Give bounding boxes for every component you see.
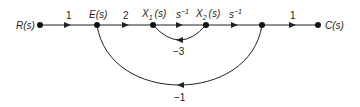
arrow-local-loop-icon	[176, 37, 183, 43]
label-X1: X1(s)	[141, 8, 166, 21]
gain-N-C: 1	[290, 10, 296, 21]
arrow-X1-X2-icon	[176, 22, 183, 28]
label-C: C(s)	[325, 20, 344, 31]
gain-E-X1: 2	[123, 10, 129, 21]
gain-R-E: 1	[66, 10, 72, 21]
arrow-N-C-icon	[289, 22, 296, 28]
gain-local-loop: −3	[173, 46, 185, 57]
arrow-outer-loop-icon	[177, 82, 184, 88]
signal-flow-graph: R(s) E(s) X1(s) X2(s) C(s) 1 2 s−1 s−1 1…	[0, 0, 360, 107]
node-R	[37, 22, 43, 28]
node-X2	[203, 22, 209, 28]
arrow-X2-N-icon	[231, 22, 238, 28]
node-N	[259, 22, 265, 28]
gain-X1-X2: s−1	[176, 8, 189, 20]
gain-X2-N: s−1	[229, 8, 242, 20]
arrow-E-X1-icon	[122, 22, 129, 28]
node-E	[94, 22, 100, 28]
arrow-R-E-icon	[64, 22, 71, 28]
gain-outer-loop: −1	[174, 92, 186, 103]
label-X2: X2(s)	[195, 8, 220, 21]
node-C	[315, 22, 321, 28]
local-feedback-loop	[153, 25, 206, 40]
node-X1	[150, 22, 156, 28]
label-E: E(s)	[89, 9, 107, 20]
label-R: R(s)	[16, 20, 35, 31]
